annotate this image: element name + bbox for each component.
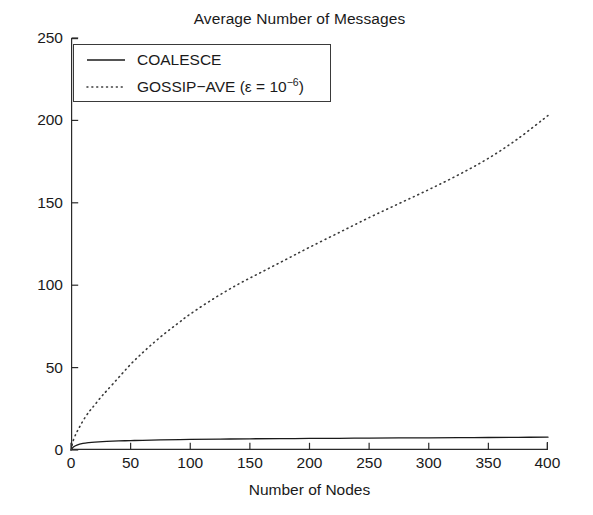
x-axis-tick-label-300: 300 (416, 455, 442, 471)
x-axis-tick-label-100: 100 (177, 455, 203, 471)
x-axis-tick-label-150: 150 (237, 455, 263, 471)
chart-title-text: Average Number of Messages (194, 10, 406, 28)
y-axis-tick-label-200: 200 (37, 112, 63, 128)
y-axis-tick-label-250: 250 (37, 30, 63, 46)
x-axis-tick-label-0: 0 (67, 455, 76, 471)
y-axis-tick-labels: 050100150200250 (0, 38, 63, 450)
y-axis-tick-label-150: 150 (37, 195, 63, 211)
x-axis-label: Number of Nodes (71, 481, 548, 499)
legend-label-coalesce: COALESCE (137, 52, 221, 68)
y-axis-tick-label-50: 50 (46, 360, 63, 376)
x-axis-tick-label-350: 350 (475, 455, 501, 471)
y-axis-tick-label-0: 0 (54, 442, 63, 458)
legend-label-gossip-prefix: GOSSIP−AVE (ε = 10 (137, 78, 287, 95)
x-axis-ticks (71, 443, 547, 450)
x-axis-tick-label-200: 200 (297, 455, 323, 471)
legend-label-gossip-ave: GOSSIP−AVE (ε = 10−6) (137, 79, 304, 95)
dotted-line-sample-icon (86, 80, 126, 94)
chart-title: Average Number of Messages (0, 10, 593, 28)
chart-figure: Average Number of Messages 0501001502002… (0, 0, 593, 515)
solid-line-sample-icon (86, 53, 126, 67)
y-axis-tick-label-100: 100 (37, 277, 63, 293)
x-axis-tick-label-50: 50 (122, 455, 139, 471)
legend-label-gossip-suffix: ) (299, 78, 304, 95)
legend-item-coalesce[interactable]: COALESCE (74, 45, 330, 74)
chart-legend[interactable]: COALESCE GOSSIP−AVE (ε = 10−6) (73, 44, 331, 102)
x-axis-tick-label-250: 250 (356, 455, 382, 471)
x-axis-tick-label-400: 400 (534, 455, 560, 471)
x-axis-tick-labels: 050100150200250300350400 (71, 455, 548, 477)
legend-label-gossip-exponent: −6 (287, 76, 299, 88)
series-line-gossip-ave (71, 115, 548, 450)
legend-item-gossip-ave[interactable]: GOSSIP−AVE (ε = 10−6) (74, 72, 330, 101)
